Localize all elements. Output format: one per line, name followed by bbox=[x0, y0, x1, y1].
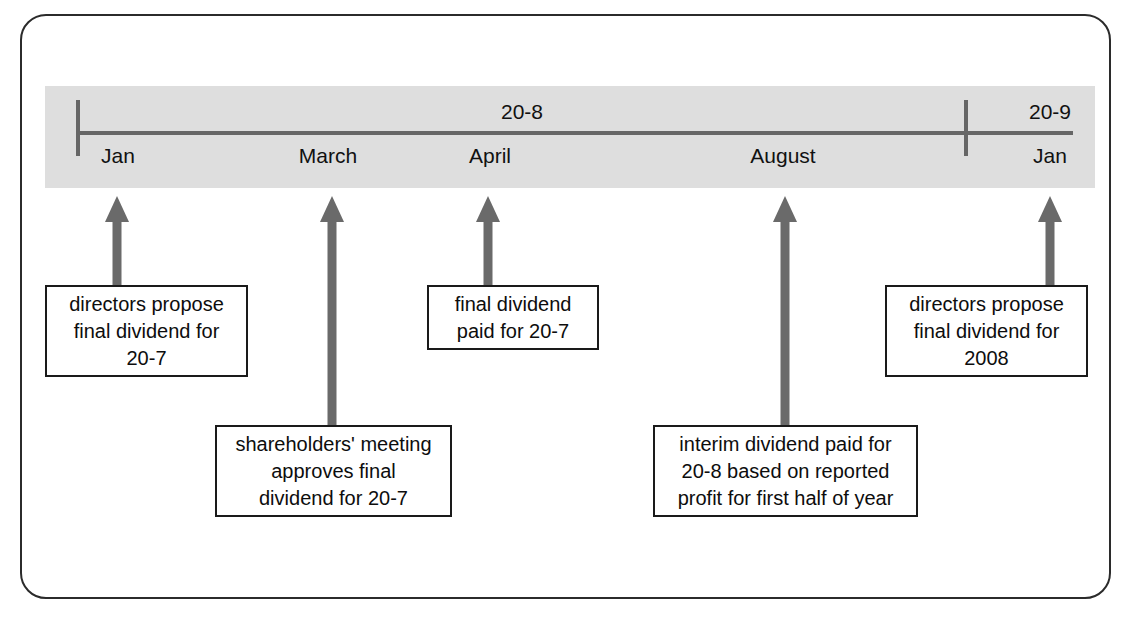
event-callout-text: shareholders' meeting approves final div… bbox=[235, 431, 431, 512]
event-arrow-august-interim bbox=[770, 196, 800, 426]
timeline-month-label-march: March bbox=[268, 144, 388, 168]
timeline-month-label-april: April bbox=[430, 144, 550, 168]
event-arrow-april-paid bbox=[473, 196, 503, 286]
timeline-diagram-canvas: 20-8 20-9 Jan March April August Jan dir… bbox=[0, 0, 1133, 618]
event-callout-april-paid: final dividend paid for 20-7 bbox=[427, 285, 599, 350]
timeline-year-label-20-9: 20-9 bbox=[990, 100, 1110, 124]
timeline-month-label-jan-1: Jan bbox=[58, 144, 178, 168]
timeline-month-label-august: August bbox=[723, 144, 843, 168]
event-callout-text: final dividend paid for 20-7 bbox=[455, 291, 572, 345]
event-callout-text: directors propose final dividend for 20-… bbox=[69, 291, 224, 372]
arrow-shaft bbox=[484, 216, 493, 286]
timeline-tick-year-boundary bbox=[964, 100, 968, 156]
event-callout-jan2-propose: directors propose final dividend for 200… bbox=[885, 285, 1088, 377]
event-arrow-jan2-propose bbox=[1035, 196, 1065, 286]
timeline-year-label-20-8: 20-8 bbox=[462, 100, 582, 124]
event-callout-text: interim dividend paid for 20-8 based on … bbox=[678, 431, 894, 512]
event-arrow-march-approve bbox=[317, 196, 347, 426]
timeline-month-label-jan-2: Jan bbox=[990, 144, 1110, 168]
arrow-shaft bbox=[113, 216, 122, 286]
arrow-shaft bbox=[781, 216, 790, 426]
arrow-shaft bbox=[1046, 216, 1055, 286]
event-callout-jan-propose: directors propose final dividend for 20-… bbox=[45, 285, 248, 377]
timeline-axis-line bbox=[78, 131, 1073, 135]
arrow-shaft bbox=[328, 216, 337, 426]
event-callout-march-approve: shareholders' meeting approves final div… bbox=[215, 425, 452, 517]
event-callout-text: directors propose final dividend for 200… bbox=[909, 291, 1064, 372]
event-arrow-jan-propose bbox=[102, 196, 132, 286]
event-callout-august-interim: interim dividend paid for 20-8 based on … bbox=[653, 425, 918, 517]
